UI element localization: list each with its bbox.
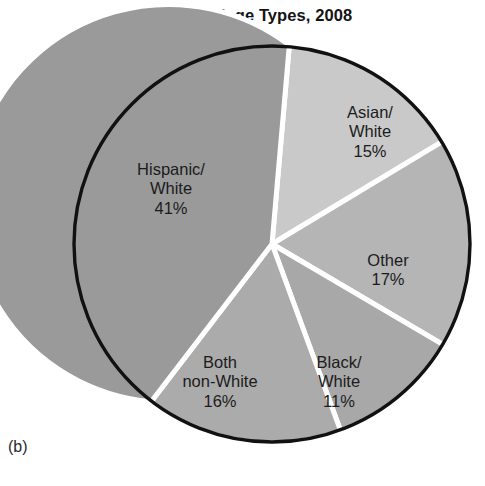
pie-chart: Hispanic/ White 41% Asian/ White 15% Oth… bbox=[0, 0, 485, 486]
pie-chart-svg bbox=[0, 0, 485, 486]
figure-caption: (b) bbox=[8, 438, 28, 456]
